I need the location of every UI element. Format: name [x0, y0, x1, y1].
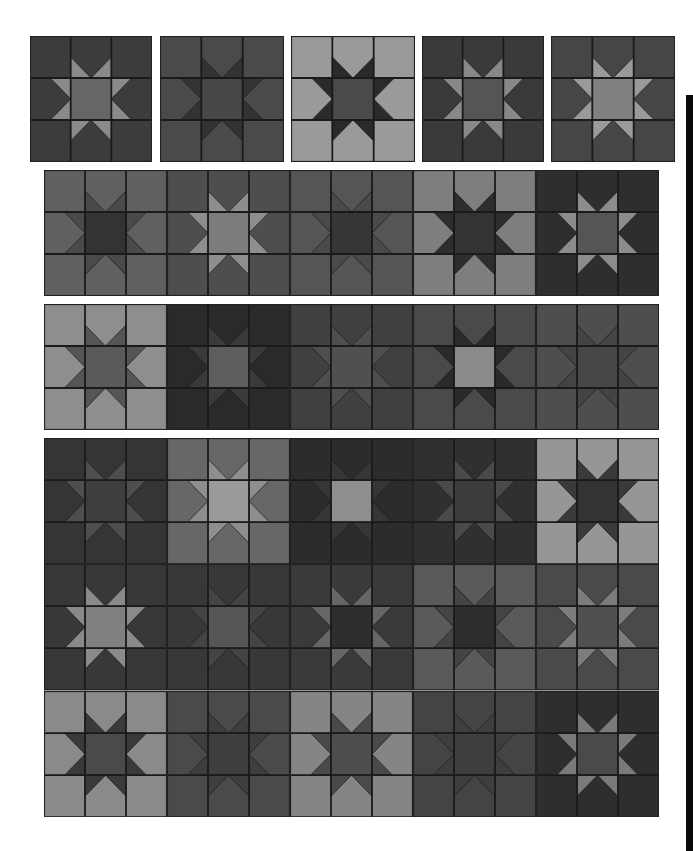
quilt-block-strip1-r1-c4 [413, 170, 536, 296]
sawtooth-star-icon [422, 36, 544, 162]
quilt-block-strip1-r1-c3 [290, 170, 413, 296]
sawtooth-star-icon [30, 36, 152, 162]
quilt-block-strip1-r1-c5 [536, 170, 659, 296]
quilt-block-strip3-r2-c3 [290, 564, 413, 690]
sawtooth-star-icon [413, 691, 536, 817]
sawtooth-star-icon [290, 170, 413, 296]
quilt-block-strip3-r1-c5 [536, 438, 659, 564]
quilt-block-strip3-r3-c1 [44, 691, 167, 817]
quilt-block-strip3-r2-c1 [44, 564, 167, 690]
quilt-block-strip3-r2-c5 [536, 564, 659, 690]
quilt-block-strip3-r3-c4 [413, 691, 536, 817]
quilt-block-strip3-r2-c4 [413, 564, 536, 690]
quilt-block-strip2-r1-c5 [536, 304, 659, 430]
sawtooth-star-icon [167, 691, 290, 817]
quilt-block-strip3-r2-c2 [167, 564, 290, 690]
quilt-block-strip3-r3-c2 [167, 691, 290, 817]
sawtooth-star-icon [536, 564, 659, 690]
quilt-block-strip1-r1-c2 [167, 170, 290, 296]
quilt-block-single-1 [30, 36, 152, 162]
sawtooth-star-icon [536, 304, 659, 430]
sawtooth-star-icon [290, 304, 413, 430]
sawtooth-star-icon [413, 170, 536, 296]
sawtooth-star-icon [290, 564, 413, 690]
sawtooth-star-icon [44, 438, 167, 564]
sawtooth-star-icon [44, 170, 167, 296]
sawtooth-star-icon [536, 170, 659, 296]
sawtooth-star-icon [413, 564, 536, 690]
quilt-block-strip2-r1-c4 [413, 304, 536, 430]
sawtooth-star-icon [44, 691, 167, 817]
sawtooth-star-icon [551, 36, 675, 162]
sawtooth-star-icon [536, 691, 659, 817]
quilt-block-single-2 [160, 36, 284, 162]
sawtooth-star-icon [413, 438, 536, 564]
sawtooth-star-icon [291, 36, 415, 162]
page-edge-shadow [686, 95, 693, 851]
sawtooth-star-icon [167, 564, 290, 690]
quilt-block-strip2-r1-c1 [44, 304, 167, 430]
quilt-block-strip3-r1-c3 [290, 438, 413, 564]
sawtooth-star-icon [290, 691, 413, 817]
sawtooth-star-icon [44, 564, 167, 690]
sawtooth-star-icon [290, 438, 413, 564]
sawtooth-star-icon [160, 36, 284, 162]
sawtooth-star-icon [167, 438, 290, 564]
quilt-block-single-5 [551, 36, 675, 162]
quilt-block-strip3-r3-c5 [536, 691, 659, 817]
quilt-block-strip3-r1-c2 [167, 438, 290, 564]
quilt-block-single-4 [422, 36, 544, 162]
quilt-block-strip1-r1-c1 [44, 170, 167, 296]
quilt-block-strip3-r1-c1 [44, 438, 167, 564]
sawtooth-star-icon [413, 304, 536, 430]
sawtooth-star-icon [44, 304, 167, 430]
quilt-block-strip2-r1-c2 [167, 304, 290, 430]
quilt-block-strip2-r1-c3 [290, 304, 413, 430]
quilt-block-strip3-r1-c4 [413, 438, 536, 564]
quilt-block-strip3-r3-c3 [290, 691, 413, 817]
quilt-block-single-3 [291, 36, 415, 162]
sawtooth-star-icon [167, 170, 290, 296]
sawtooth-star-icon [167, 304, 290, 430]
sawtooth-star-icon [536, 438, 659, 564]
